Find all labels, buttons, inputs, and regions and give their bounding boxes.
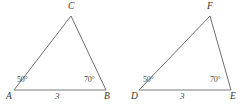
vertex-label-b: B — [104, 92, 110, 102]
vertex-label-d: D — [131, 92, 138, 102]
vertex-label-f: F — [207, 2, 213, 12]
angle-label-e: 70° — [210, 76, 221, 84]
angle-label-b: 70° — [84, 76, 95, 84]
vertex-label-a: A — [6, 92, 12, 102]
side-label-ab: 3 — [55, 92, 60, 101]
side-label-de: 3 — [180, 92, 185, 101]
vertex-label-c: C — [68, 2, 74, 12]
vertex-label-e: E — [230, 92, 236, 102]
angle-label-d: 50° — [143, 76, 154, 84]
angle-label-a: 50° — [17, 76, 28, 84]
triangles-drawing — [0, 0, 248, 109]
geometry-figure: A B C 50° 70° 3 D E F 50° 70° 3 — [0, 0, 248, 109]
